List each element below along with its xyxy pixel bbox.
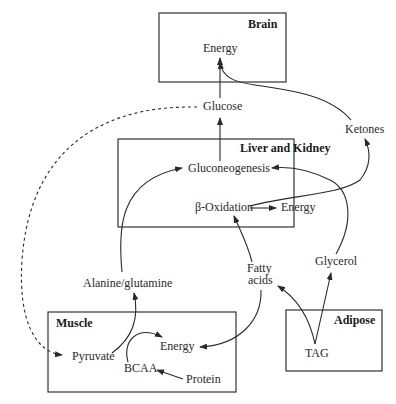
protein-label: Protein — [186, 372, 221, 386]
arrow-bcaa-to-energy — [127, 333, 162, 362]
arrow-fatty-acids-to-muscle-energy — [200, 290, 261, 347]
muscle-title: Muscle — [56, 316, 93, 330]
glycerol-label: Glycerol — [315, 254, 358, 268]
muscle-energy-label: Energy — [160, 339, 194, 353]
bcaa-label: BCAA — [124, 361, 158, 375]
fatty-acids-label-2: acids — [248, 273, 273, 287]
tag-label: TAG — [305, 346, 329, 360]
liver-kidney-title: Liver and Kidney — [240, 141, 330, 155]
brain-title: Brain — [248, 17, 278, 31]
brain-energy-label: Energy — [203, 41, 237, 55]
arrow-protein-to-bcaa — [157, 370, 183, 379]
arrow-pyruvate-to-alanine — [112, 293, 136, 353]
ketones-label: Ketones — [345, 122, 385, 136]
arrow-alanine-to-gluconeogenesis — [121, 168, 182, 272]
glucose-label: Glucose — [203, 99, 242, 113]
pyruvate-label: Pyruvate — [72, 349, 115, 363]
beta-oxidation-label: β-Oxidation — [195, 200, 253, 214]
alanine-glutamine-label: Alanine/glutamine — [83, 276, 172, 290]
arrow-tag-to-glycerol — [315, 273, 331, 344]
arrow-tag-to-fatty-acids — [278, 286, 315, 344]
arrow-fatty-acids-to-beta-oxidation — [234, 216, 252, 262]
adipose-title: Adipose — [334, 313, 376, 327]
gluconeogenesis-label: Gluconeogenesis — [188, 161, 270, 175]
liver-energy-label: Energy — [281, 200, 315, 214]
metabolic-diagram: Brain Liver and Kidney Muscle Adipose En… — [0, 0, 396, 404]
